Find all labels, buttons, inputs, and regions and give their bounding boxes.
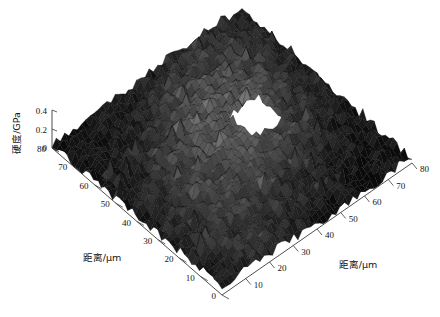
- axis-tick-label: 0: [212, 291, 217, 301]
- axis-tick-label: 20: [165, 254, 175, 264]
- axis-tick-label: 10: [186, 273, 196, 283]
- z-tick-label-0: 0.4: [36, 106, 48, 116]
- axis-tick-label: 30: [301, 247, 311, 257]
- axis-tick-label: 80: [420, 164, 430, 174]
- figure-3d-surface-plot: 0.4 0.2 0 80706050403020100 102030405060…: [0, 0, 440, 317]
- axis-tick-label: 40: [122, 218, 132, 228]
- axis-tick-label: 60: [373, 197, 383, 207]
- surface-plot-canvas: 0.4 0.2 0 80706050403020100 102030405060…: [0, 0, 440, 317]
- axis-tick-label: 70: [396, 181, 406, 191]
- axis-tick-label: 80: [37, 144, 47, 154]
- right-axis-title: 距离/µm: [339, 259, 378, 270]
- axis-tick-label: 50: [101, 199, 111, 209]
- z-tick-label-1: 0.2: [36, 125, 47, 135]
- axis-tick-label: 70: [58, 162, 68, 172]
- axis-tick-label: 60: [80, 181, 90, 191]
- z-axis-title: 硬度/GPa: [11, 112, 22, 154]
- left-axis-title: 距离/µm: [83, 252, 122, 263]
- axis-tick-label: 50: [349, 214, 359, 224]
- axis-tick-label: 20: [278, 263, 288, 273]
- axis-tick-label: 10: [254, 280, 264, 290]
- axis-tick-label: 40: [325, 230, 335, 240]
- axis-tick-label: 30: [143, 236, 153, 246]
